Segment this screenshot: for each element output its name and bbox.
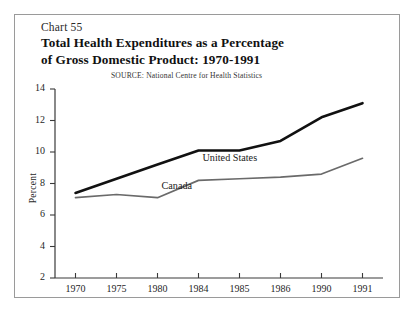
x-tick-label: 1990 [299,283,345,294]
y-tick-label: 4 [21,240,45,251]
series-lines [76,103,363,198]
x-tick-label: 1986 [258,283,304,294]
x-tick-label: 1984 [176,283,222,294]
x-tick-label: 1980 [135,283,181,294]
chart-figure: Chart 55 Total Health Expenditures as a … [14,14,400,298]
y-tick-label: 12 [21,114,45,125]
x-tick-marks [76,273,363,278]
series-label-united-states: United States [203,152,258,163]
y-tick-marks [50,89,55,278]
x-tick-label: 1970 [53,283,99,294]
y-tick-label: 10 [21,145,45,156]
series-label-canada: Canada [162,180,193,191]
y-tick-label: 8 [21,177,45,188]
x-tick-label: 1985 [217,283,263,294]
y-tick-label: 2 [21,271,45,282]
x-tick-label: 1991 [340,283,386,294]
y-tick-label: 14 [21,82,45,93]
y-tick-label: 6 [21,208,45,219]
x-tick-label: 1975 [94,283,140,294]
